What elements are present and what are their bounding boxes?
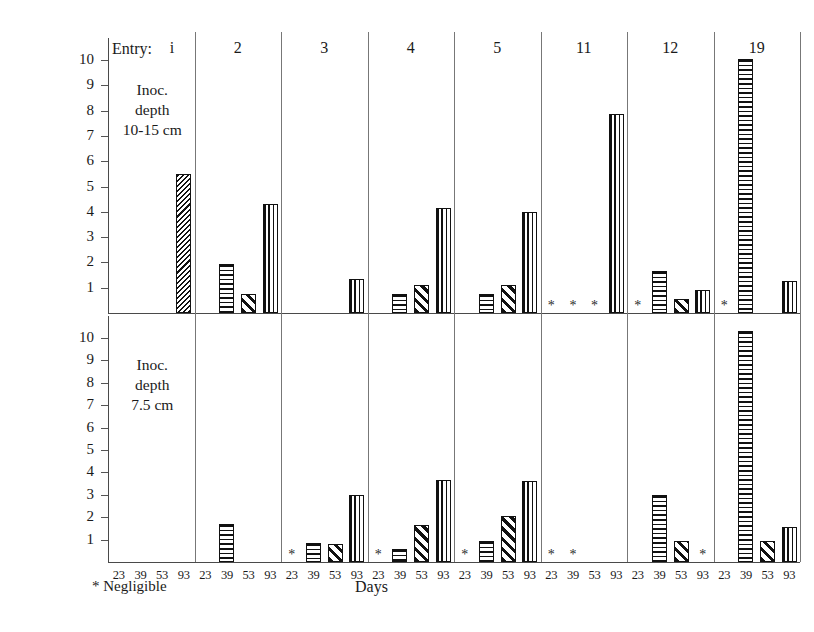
negligible-marker: * (457, 548, 473, 562)
negligible-marker: * (716, 299, 732, 313)
bar-bottom-entry5-day39 (479, 541, 494, 562)
x-tick-label: 39 (735, 569, 757, 582)
y-axis-line-bottom (108, 316, 109, 562)
y-tick-mark (101, 540, 108, 541)
y-tick-mark (101, 338, 108, 339)
bar-top-entry19-day39 (738, 59, 753, 313)
group-separator (714, 310, 715, 562)
y-tick-label: 2 (68, 509, 94, 524)
y-tick-label: 1 (68, 280, 94, 295)
x-tick-label: 23 (713, 569, 735, 582)
bar-bottom-entry2-day39 (219, 524, 234, 562)
x-tick-label: 53 (411, 569, 433, 582)
entry-header-5: 5 (454, 40, 541, 56)
y-tick-label: 10 (68, 52, 94, 67)
bar-top-entry11-day93 (609, 114, 624, 313)
y-tick-mark (101, 360, 108, 361)
group-separator (281, 310, 282, 562)
negligible-marker: * (370, 548, 386, 562)
x-tick-label: 23 (540, 569, 562, 582)
x-tick-label: 93 (692, 569, 714, 582)
entry-label-prefix: Entry: (112, 40, 152, 58)
bar-bottom-entry3-day93 (349, 495, 364, 562)
x-tick-label: 93 (778, 569, 800, 582)
panel-note-line: depth (112, 100, 193, 120)
y-tick-mark (101, 472, 108, 473)
x-tick-label: 93 (605, 569, 627, 582)
y-tick-mark (101, 262, 108, 263)
bar-bottom-entry4-day93 (436, 480, 451, 562)
y-tick-mark (101, 405, 108, 406)
y-tick-mark (101, 288, 108, 289)
bar-top-entry4-day39 (392, 294, 407, 313)
y-tick-label: 10 (68, 330, 94, 345)
x-tick-label: 39 (648, 569, 670, 582)
group-separator (195, 32, 196, 313)
group-separator (195, 310, 196, 562)
bar-bottom-entry4-day53 (414, 525, 429, 562)
y-tick-mark (101, 60, 108, 61)
panel-note-line: Inoc. (112, 355, 193, 375)
y-tick-mark (101, 237, 108, 238)
y-tick-mark (101, 111, 108, 112)
x-tick-label: 53 (324, 569, 346, 582)
group-separator (627, 32, 628, 313)
bar-top-entry12-day93 (695, 290, 710, 313)
x-tick-label: 93 (259, 569, 281, 582)
bar-bottom-entry5-day53 (501, 516, 516, 562)
panel-note-line: 7.5 cm (112, 395, 193, 415)
bar-bottom-entry3-day39 (306, 543, 321, 562)
negligible-marker: * (565, 548, 581, 562)
bar-top-entry12-day53 (674, 299, 689, 313)
group-separator (800, 32, 801, 313)
bar-bottom-entry19-day39 (738, 331, 753, 562)
x-tick-label: 53 (670, 569, 692, 582)
x-tick-label: 39 (129, 569, 151, 582)
group-separator (368, 310, 369, 562)
group-separator (368, 32, 369, 313)
negligible-marker: * (587, 299, 603, 313)
y-tick-label: 3 (68, 487, 94, 502)
y-tick-mark (101, 383, 108, 384)
y-tick-mark (101, 187, 108, 188)
y-tick-mark (101, 517, 108, 518)
negligible-marker: * (543, 548, 559, 562)
y-tick-mark (101, 428, 108, 429)
bar-top-entry5-day93 (522, 212, 537, 313)
panel-note-bottom: Inoc.depth7.5 cm (112, 355, 193, 414)
x-tick-label: 93 (519, 569, 541, 582)
panel-note-top: Inoc.depth10-15 cm (112, 80, 193, 139)
x-tick-label: 53 (584, 569, 606, 582)
x-tick-label: 93 (346, 569, 368, 582)
group-separator (800, 310, 801, 562)
x-tick-label: 39 (302, 569, 324, 582)
x-tick-label: 39 (562, 569, 584, 582)
y-tick-label: 3 (68, 229, 94, 244)
y-tick-label: 6 (68, 153, 94, 168)
negligible-marker: * (565, 299, 581, 313)
y-tick-label: 9 (68, 77, 94, 92)
x-tick-label: 23 (627, 569, 649, 582)
y-tick-label: 6 (68, 420, 94, 435)
y-tick-mark (101, 450, 108, 451)
negligible-marker: * (543, 299, 559, 313)
bar-top-entry19-day93 (782, 281, 797, 313)
bar-top-entry12-day39 (652, 271, 667, 313)
negligible-marker: * (695, 548, 711, 562)
x-tick-label: 53 (497, 569, 519, 582)
negligible-marker: * (284, 548, 300, 562)
y-tick-label: 4 (68, 464, 94, 479)
chart-figure: Nodule wt (mg) Entry: * Negligible Days … (0, 0, 814, 632)
group-separator (627, 310, 628, 562)
x-tick-label: 39 (216, 569, 238, 582)
bar-top-entry2-day53 (241, 294, 256, 313)
bar-top-entry3-day93 (349, 279, 364, 313)
y-tick-label: 7 (68, 128, 94, 143)
x-tick-label: 39 (475, 569, 497, 582)
entry-header-i: i (150, 40, 194, 56)
negligible-marker: * (630, 299, 646, 313)
panel-note-line: 10-15 cm (112, 120, 193, 140)
bar-top-entry2-day39 (219, 264, 234, 313)
group-separator (281, 32, 282, 313)
group-separator (541, 310, 542, 562)
